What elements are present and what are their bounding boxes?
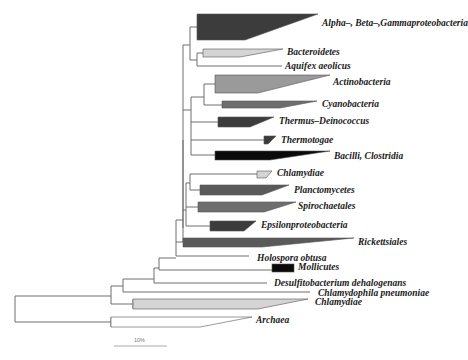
label-actinobacteria: Actinobacteria	[332, 77, 391, 87]
label-chlamydiae-upper: Chlamydiae	[277, 168, 325, 178]
branch-bacteria	[111, 286, 133, 304]
clade-actinobacteria	[215, 75, 330, 93]
label-alpha-beta-gamma: Alpha–, Beta–,Gammaproteobacteria	[321, 18, 468, 28]
label-chlamydiae-lower: Chlamydiae	[315, 297, 363, 307]
clade-thermus	[218, 117, 274, 127]
clade-rickettsiales	[183, 238, 354, 247]
label-archaea: Archaea	[255, 315, 290, 325]
label-aquifex: Aquifex aeolicus	[284, 61, 351, 71]
label-spirochaetales: Spirochaetales	[298, 201, 356, 211]
branch-top	[190, 27, 197, 60]
clade-epsilon	[210, 221, 256, 231]
label-cyanobacteria: Cyanobacteria	[322, 99, 379, 109]
clade-alpha-beta-gamma	[197, 14, 318, 40]
clade-chlamydiae-lower	[133, 299, 308, 309]
phylogenetic-tree: Alpha–, Beta–,Gammaproteobacteria Bacter…	[0, 0, 468, 360]
clade-bacilli	[215, 151, 330, 160]
label-bacilli: Bacilli, Clostridia	[333, 151, 403, 161]
scale-bar-label: 10%	[134, 337, 145, 343]
taxon-labels: Alpha–, Beta–,Gammaproteobacteria Bacter…	[255, 18, 468, 325]
clade-chlamydiae-upper	[257, 171, 272, 178]
label-rickettsiales: Rickettsiales	[357, 237, 407, 247]
label-desulfito: Desulfitobacterium dehalogenans	[273, 278, 407, 288]
label-thermus: Thermus–Deinococcus	[279, 116, 370, 126]
label-thermotogae: Thermotogae	[281, 135, 334, 145]
clade-cyanobacteria	[222, 101, 317, 108]
branch-root	[15, 296, 111, 322]
clade-planctomycetes	[200, 185, 289, 195]
branch-n159	[159, 258, 272, 270]
clade-archaea	[111, 317, 252, 327]
label-epsilon: Epsilonproteobacteria	[260, 220, 348, 230]
label-planctomycetes: Planctomycetes	[294, 185, 355, 195]
clade-mollicutes	[272, 264, 294, 272]
scale-bar: 10%	[114, 337, 167, 346]
clade-spirochaetales	[198, 202, 296, 212]
label-mollicutes: Mollicutes	[297, 262, 339, 272]
label-bacteroidetes: Bacteroidetes	[286, 47, 340, 57]
clade-bacteroidetes	[203, 49, 283, 57]
clade-thermotogae	[264, 136, 276, 144]
